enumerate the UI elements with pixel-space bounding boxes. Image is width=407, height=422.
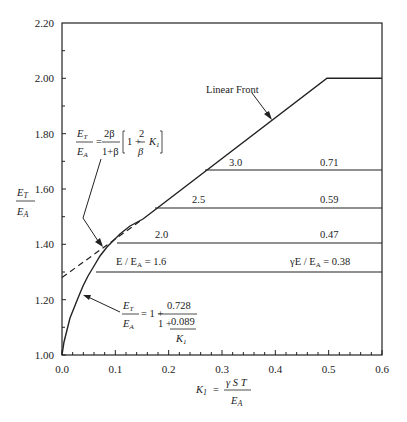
eq2-den-numerator: 0.089 — [171, 316, 195, 327]
svg-text:γ S T: γ S T — [226, 377, 248, 388]
eq1-beta: β — [137, 146, 144, 157]
svg-text:ET: ET — [16, 187, 28, 200]
x-tick-labels: 0.0 0.1 0.2 0.3 0.4 0.5 0.6 — [55, 363, 389, 375]
svg-text:EA: EA — [16, 206, 28, 219]
eq2-den-one-plus: 1 + — [158, 318, 172, 329]
eq2-den-k1: K1 — [175, 333, 187, 346]
linear-front-line — [143, 78, 382, 219]
eq2-et: ET — [122, 300, 134, 313]
label-e-ea-1-6: E / EA = 1.6 — [116, 256, 166, 269]
eq1-et: ET — [76, 128, 88, 141]
eq1-one-plus-beta: 1+β — [102, 146, 119, 157]
y-tick-1-20: 1.20 — [35, 294, 55, 306]
eq1-ea: EA — [76, 146, 88, 159]
label-3-0: 3.0 — [229, 157, 242, 168]
plot-frame — [62, 23, 382, 355]
x-axis-ticks — [62, 350, 382, 355]
svg-text:EA: EA — [230, 395, 242, 408]
x-tick-0-1: 0.1 — [108, 363, 122, 375]
eq1-two: 2 — [139, 128, 144, 139]
label-2-5: 2.5 — [192, 194, 205, 205]
x-tick-0-6: 0.6 — [375, 363, 389, 375]
x-tick-0-0: 0.0 — [55, 363, 69, 375]
linear-front-label: Linear Front — [206, 84, 259, 95]
y-tick-2-00: 2.00 — [35, 72, 55, 84]
equation-curve-arrow — [83, 295, 120, 312]
y-tick-labels: 1.00 1.20 1.40 1.60 1.80 2.00 2.20 — [35, 17, 55, 361]
equation-dashed: ET EA = 2β 1+β 1 + 2 β K1 — [76, 128, 162, 159]
svg-text:=: = — [213, 384, 219, 395]
y-tick-1-00: 1.00 — [35, 349, 55, 361]
y-tick-1-60: 1.60 — [35, 183, 55, 195]
eq1-two-beta: 2β — [104, 128, 115, 139]
eq1-k1: K1 — [148, 136, 160, 149]
empirical-curve — [62, 219, 143, 355]
eq2-ea: EA — [122, 318, 134, 331]
linear-front-arrow — [252, 93, 272, 120]
x-tick-0-4: 0.4 — [268, 363, 282, 375]
svg-text:K1: K1 — [195, 384, 207, 397]
label-0-59: 0.59 — [320, 194, 338, 205]
y-tick-1-40: 1.40 — [35, 238, 55, 250]
chart: 1.00 1.20 1.40 1.60 1.80 2.00 2.20 0.0 0… — [0, 0, 407, 422]
label-2-0: 2.0 — [155, 229, 168, 240]
equation-curve: ET EA = 1 + 0.728 1 + 0.089 K1 — [122, 300, 197, 346]
y-axis-label: ET EA — [16, 187, 35, 219]
equation-dashed-arrow — [83, 159, 103, 247]
y-tick-1-80: 1.80 — [35, 128, 55, 140]
x-tick-0-2: 0.2 — [162, 363, 176, 375]
dashed-asymptote — [62, 219, 143, 278]
x-tick-0-3: 0.3 — [215, 363, 229, 375]
eq2-numerator: 0.728 — [167, 300, 191, 311]
x-axis-label: K1 = γ S T EA — [195, 377, 251, 408]
y-tick-2-20: 2.20 — [35, 17, 55, 29]
label-0-71: 0.71 — [320, 157, 338, 168]
x-tick-0-5: 0.5 — [322, 363, 336, 375]
label-gamma-e-ea-0-38: γE / EA = 0.38 — [289, 256, 350, 269]
label-0-47: 0.47 — [320, 229, 338, 240]
